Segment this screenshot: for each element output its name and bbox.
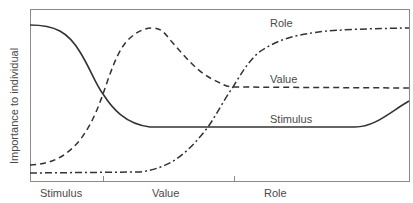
inline-label-stimulus: Stimulus bbox=[270, 113, 313, 125]
series-role-line bbox=[30, 28, 409, 173]
x-label-role: Role bbox=[264, 187, 287, 199]
series-stimulus-line bbox=[30, 25, 409, 127]
inline-label-role: Role bbox=[270, 17, 293, 29]
x-label-stimulus: Stimulus bbox=[40, 187, 83, 199]
plot-frame bbox=[31, 10, 410, 182]
y-axis-label: Importance to individual bbox=[8, 48, 20, 164]
x-label-value: Value bbox=[152, 187, 179, 199]
inline-label-value: Value bbox=[270, 73, 297, 85]
line-chart: Role Value Stimulus Stimulus Value Role … bbox=[0, 0, 413, 203]
series-value-line bbox=[30, 28, 409, 165]
